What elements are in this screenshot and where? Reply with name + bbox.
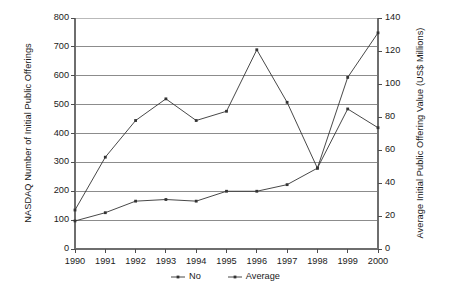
- y-axis-left-tick: 100: [35, 214, 69, 224]
- y-axis-left-tick: 200: [35, 185, 69, 195]
- series-layer: [74, 31, 380, 222]
- y-axis-left-title: NASDAQ Number of Initial Public Offering…: [23, 13, 33, 253]
- legend-item-average: Average: [227, 272, 280, 282]
- y-axis-right-tick: 20: [385, 210, 419, 220]
- y-axis-right-tick: 140: [385, 12, 419, 22]
- y-axis-left-tick: 300: [35, 156, 69, 166]
- series-no: [74, 48, 380, 211]
- y-axis-left-tick: 800: [35, 12, 69, 22]
- y-axis-right-tick: 80: [385, 111, 419, 121]
- legend-marker-icon: [227, 272, 243, 282]
- y-axis-right-tick: 100: [385, 78, 419, 88]
- y-axis-left-tick: 0: [35, 243, 69, 253]
- chart-root: NASDAQ Number of Initial Public Offering…: [0, 0, 450, 296]
- y-axis-left-tick: 500: [35, 99, 69, 109]
- legend-label: No: [189, 272, 201, 281]
- x-axis-tick: 2000: [356, 256, 400, 266]
- y-axis-right-tick: 0: [385, 243, 419, 253]
- legend-marker-icon: [170, 272, 186, 282]
- legend-item-no: No: [170, 272, 201, 282]
- series-average: [74, 31, 380, 222]
- y-axis-right-tick: 60: [385, 144, 419, 154]
- y-axis-right-tick: 120: [385, 45, 419, 55]
- y-axis-left-tick: 700: [35, 41, 69, 51]
- legend-label: Average: [246, 272, 280, 281]
- gridlines: [75, 18, 378, 249]
- y-axis-left-tick: 600: [35, 70, 69, 80]
- y-axis-left-tick: 400: [35, 128, 69, 138]
- axis-ticks: [71, 18, 382, 253]
- y-axis-right-tick: 40: [385, 177, 419, 187]
- chart-legend: NoAverage: [0, 272, 450, 282]
